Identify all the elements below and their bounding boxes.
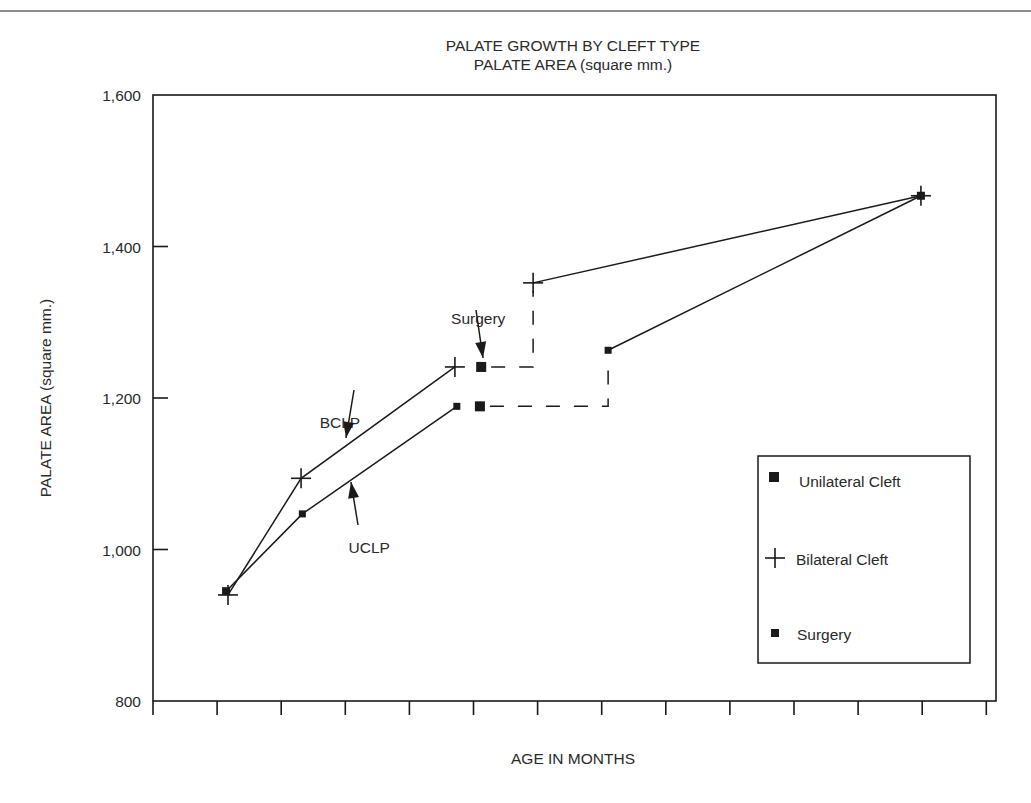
y-tick-label: 1,600	[102, 87, 141, 104]
small-square-marker-icon	[771, 629, 779, 637]
legend-label: Surgery	[797, 626, 852, 643]
square-marker-icon	[222, 587, 230, 595]
uclp-line	[608, 196, 921, 351]
y-axis-title: PALATE AREA (square mm.)	[37, 299, 54, 497]
square-marker-icon	[605, 347, 612, 354]
plus-marker-icon	[291, 468, 311, 488]
x-axis	[153, 701, 986, 715]
bclp-surgery-dashed-line	[491, 291, 533, 367]
x-axis-title: AGE IN MONTHS	[511, 750, 635, 767]
square-marker-icon	[769, 472, 779, 482]
arrowhead-icon	[348, 482, 359, 499]
chart-title: PALATE GROWTH BY CLEFT TYPE	[446, 37, 700, 54]
uclp-surgery-dashed-line	[490, 358, 608, 406]
y-tick-label: 800	[115, 693, 141, 710]
y-axis: 8001,0001,2001,4001,600	[102, 87, 168, 710]
legend: Unilateral Cleft Bilateral Cleft Surgery	[758, 456, 970, 663]
chart-subtitle: PALATE AREA (square mm.)	[474, 56, 672, 73]
square-marker-icon	[299, 510, 306, 517]
legend-label: Unilateral Cleft	[799, 473, 901, 490]
y-tick-label: 1,400	[102, 239, 141, 256]
plus-marker-icon	[523, 273, 543, 293]
annotation-uclp: UCLP	[349, 539, 390, 556]
y-tick-label: 1,000	[102, 542, 141, 559]
surgery-marker-icon	[476, 362, 486, 372]
annotation-bclp: BCLP	[320, 414, 361, 431]
arrowhead-icon	[475, 341, 486, 358]
annotation-layer: SurgeryBCLPUCLP	[320, 310, 506, 557]
legend-label: Bilateral Cleft	[796, 551, 889, 568]
bclp-line	[228, 367, 455, 595]
uclp-line	[226, 406, 457, 591]
chart-canvas: PALATE GROWTH BY CLEFT TYPE PALATE AREA …	[0, 0, 1031, 803]
y-tick-label: 1,200	[102, 390, 141, 407]
bclp-line	[533, 196, 921, 283]
square-marker-icon	[917, 192, 925, 200]
surgery-marker-icon	[475, 401, 485, 411]
plus-marker-icon	[445, 357, 465, 377]
square-marker-icon	[453, 403, 460, 410]
